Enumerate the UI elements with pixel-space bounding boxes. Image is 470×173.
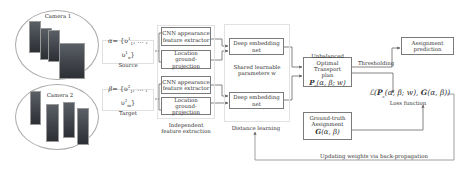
feature-extraction-caption: Independent feature extraction [155,122,217,134]
thresholding-label: Thresholding [358,60,394,66]
source-caption: Source [118,62,137,68]
location-label: ground-projection [162,56,210,68]
ground-truth-formula: G(α, β) [315,127,340,137]
source-set-box: α= {υ11, … , υ1n} Source [102,40,154,64]
shared-parameters-label: Shared learnable parameters w [228,64,286,76]
uot-label: Optimal Transport [304,60,351,72]
shared-parameters-line: parameters w [228,70,286,76]
camera-1-person-image [59,43,85,79]
deep-embedding-net-top: Deep embedding net [229,38,284,55]
distance-learning-caption: Distance learning [225,125,287,131]
camera-2-person-image [77,108,89,145]
gt-to-loss-arrow [352,105,423,130]
cnn-extractor-box-source: CNN appearance feature extractor [161,27,211,46]
uot-plan-box: Unbalanced Optimal Transport plan Pε(α, … [303,57,352,87]
source-set-expression: α= {υ11, … , υ1n} [103,35,153,62]
loss-formula: ℒ(Pε(α, β; w), G(α, β)) [369,88,449,99]
feature-extraction-caption-line: feature extraction [155,128,217,134]
ground-truth-box: Ground-truth Assignment G(α, β) [303,112,352,140]
embed-label: net [252,101,261,107]
embed-label: net [252,47,261,53]
camera-2-person-image [63,102,75,138]
cnn-extractor-box-target: CNN appearance feature extractor [161,76,211,94]
target-set-box: β= {υ21, … , υ2m} Target [102,89,154,111]
camera-2-label: Camera 2 [42,92,78,98]
assignment-prediction-label: prediction [413,46,441,52]
camera-2-person-image [30,91,41,125]
target-caption: Target [119,110,137,116]
loss-caption: Loss function [385,100,431,106]
backprop-label: Updating weights via back-propagation [320,153,450,159]
cnn-label: feature extractor [163,37,210,43]
location-projection-box-target: Location ground-projection [161,97,211,115]
deep-embedding-net-bottom: Deep embedding net [229,92,284,109]
location-label: ground-projection [162,103,210,115]
camera-2-person-image [46,104,59,142]
camera-1-label: Camera 1 [40,13,76,19]
location-projection-box-source: Location ground-projection [161,50,211,69]
assignment-prediction-box: Assignment prediction [401,37,454,55]
target-set-expression: β= {υ21, … , υ2m} [103,83,153,110]
cnn-label: feature extractor [163,85,210,91]
uot-formula: Pε(α, β; w) [309,78,346,90]
